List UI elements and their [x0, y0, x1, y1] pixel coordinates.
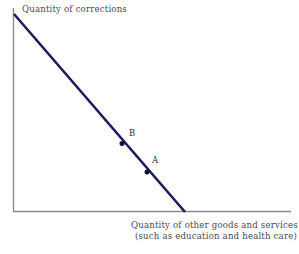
x-axis-label: Quantity of other goods and services (su… [131, 220, 298, 242]
plot-area [0, 0, 299, 254]
ppf-curve [14, 14, 185, 212]
x-axis-label-line2: (such as education and health care) [131, 231, 298, 242]
ppf-chart-figure: Quantity of corrections Quantity of othe… [0, 0, 299, 254]
point-marker-a [145, 170, 150, 175]
point-label-a: A [152, 156, 158, 165]
y-axis-label: Quantity of corrections [22, 4, 127, 15]
point-marker-b [120, 141, 125, 146]
point-label-b: B [129, 129, 135, 138]
x-axis-label-line1: Quantity of other goods and services [131, 220, 298, 230]
